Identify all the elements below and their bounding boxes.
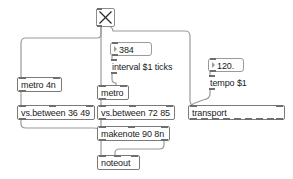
- makenote-inlet-right: [161, 126, 168, 128]
- message-box-interval[interactable]: interval $1 ticks: [110, 60, 188, 73]
- msg-tempo-text: tempo $1: [210, 78, 247, 88]
- toggle-x-icon: [97, 9, 114, 26]
- cord-makenote-vel-to-noteout: [115, 140, 164, 155]
- vs-between-high-inlet-mid: [129, 105, 136, 107]
- transport-outlet-5: [234, 118, 241, 120]
- metro-4n-inlet-right: [53, 77, 60, 79]
- noteout-text: noteout: [101, 158, 130, 168]
- metro-outlet: [99, 98, 106, 100]
- number-interval-value: 384: [119, 45, 134, 55]
- vs-between-low-inlet-left: [19, 105, 26, 107]
- toggle-inlet: [97, 8, 102, 10]
- makenote-inlet-left: [99, 126, 106, 128]
- vs-between-high-text: vs.between 72 85: [101, 108, 170, 118]
- vs-between-low-outlet: [19, 118, 26, 120]
- toggle-object[interactable]: [96, 8, 115, 27]
- metro-inlet-left: [99, 85, 106, 87]
- object-makenote[interactable]: makenote 90 8n: [97, 126, 170, 141]
- msg-interval-text: interval $1 ticks: [112, 62, 172, 72]
- vs-between-low-text: vs.between 36 49: [21, 108, 90, 118]
- object-metro[interactable]: metro: [97, 85, 129, 100]
- number-tempo-value: 120.: [217, 61, 234, 71]
- object-vs-between-low[interactable]: vs.between 36 49: [17, 105, 95, 120]
- metro-4n-inlet-left: [19, 77, 26, 79]
- transport-outlet-8: [267, 118, 274, 120]
- cord-toggle-to-metro4n: [21, 26, 101, 77]
- metro-4n-text: metro 4n: [21, 80, 56, 90]
- msg-interval-outlet: [111, 72, 117, 74]
- metro-4n-outlet: [19, 90, 26, 92]
- transport-inlet-right: [276, 105, 283, 107]
- cord-msg-interval-to-metro: [112, 73, 116, 85]
- max-patcher-canvas: 384 interval $1 ticks 120. tempo $1 metr…: [0, 0, 293, 179]
- transport-inlet-left: [190, 105, 197, 107]
- transport-outlet-6: [245, 118, 252, 120]
- transport-outlet-9: [276, 118, 283, 120]
- number-box-tempo[interactable]: 120.: [208, 58, 244, 72]
- noteout-inlet-left: [99, 155, 106, 157]
- makenote-outlet-left: [99, 139, 106, 141]
- cord-vsbetween-low-to-makenote: [21, 119, 99, 131]
- toggle-outlet: [97, 25, 102, 27]
- object-noteout[interactable]: noteout: [97, 155, 140, 170]
- object-vs-between-high[interactable]: vs.between 72 85: [97, 105, 175, 120]
- metro-text: metro: [101, 88, 124, 98]
- number-tempo-outlet: [210, 70, 216, 72]
- cord-msg-tempo-to-transport: [192, 89, 210, 105]
- transport-outlet-4: [223, 118, 230, 120]
- vs-between-high-inlet-right: [166, 105, 173, 107]
- msg-tempo-outlet: [209, 88, 215, 90]
- metro-inlet-right: [120, 85, 127, 87]
- makenote-outlet-right: [161, 139, 168, 141]
- makenote-inlet-mid: [128, 126, 135, 128]
- makenote-text: makenote 90 8n: [101, 129, 164, 139]
- noteout-inlet-mid: [114, 155, 121, 157]
- number-interval-inlet: [112, 42, 118, 44]
- number-tempo-inlet: [210, 58, 216, 60]
- number-interval-outlet: [112, 54, 118, 56]
- transport-outlet-7: [256, 118, 263, 120]
- message-box-tempo[interactable]: tempo $1: [208, 76, 256, 89]
- number-box-interval[interactable]: 384: [110, 42, 152, 56]
- msg-tempo-inlet: [209, 75, 215, 77]
- transport-outlet-2: [201, 118, 208, 120]
- object-transport[interactable]: transport: [188, 105, 285, 120]
- vs-between-low-inlet-mid: [49, 105, 56, 107]
- vs-between-high-inlet-left: [99, 105, 106, 107]
- transport-text: transport: [192, 108, 227, 118]
- msg-interval-inlet: [111, 59, 117, 61]
- object-metro-4n[interactable]: metro 4n: [17, 77, 62, 92]
- transport-outlet-3: [212, 118, 219, 120]
- noteout-inlet-right: [131, 155, 138, 157]
- vs-between-low-inlet-right: [86, 105, 93, 107]
- transport-outlet-1: [190, 118, 197, 120]
- vs-between-high-outlet: [99, 118, 106, 120]
